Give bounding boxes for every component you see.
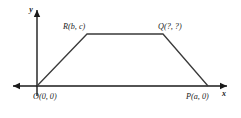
x-axis-label: x: [221, 89, 226, 98]
coordinate-geometry-figure: x y O(0, 0) P(a, 0) Q(?, ?) R(b, c): [0, 0, 241, 118]
vertex-label-r: R(b, c): [62, 22, 86, 31]
y-axis-label: y: [28, 5, 33, 14]
vertex-label-q: Q(?, ?): [158, 22, 182, 31]
trapezoid-outline: [37, 34, 208, 86]
vertex-label-p: P(a, 0): [185, 92, 209, 101]
vertex-label-origin: O(0, 0): [33, 92, 57, 101]
figure-canvas: x y O(0, 0) P(a, 0) Q(?, ?) R(b, c): [0, 0, 241, 118]
x-axis: [13, 83, 227, 89]
y-axis-top-arrowhead: [34, 10, 40, 17]
x-axis-left-arrowhead: [13, 83, 20, 89]
